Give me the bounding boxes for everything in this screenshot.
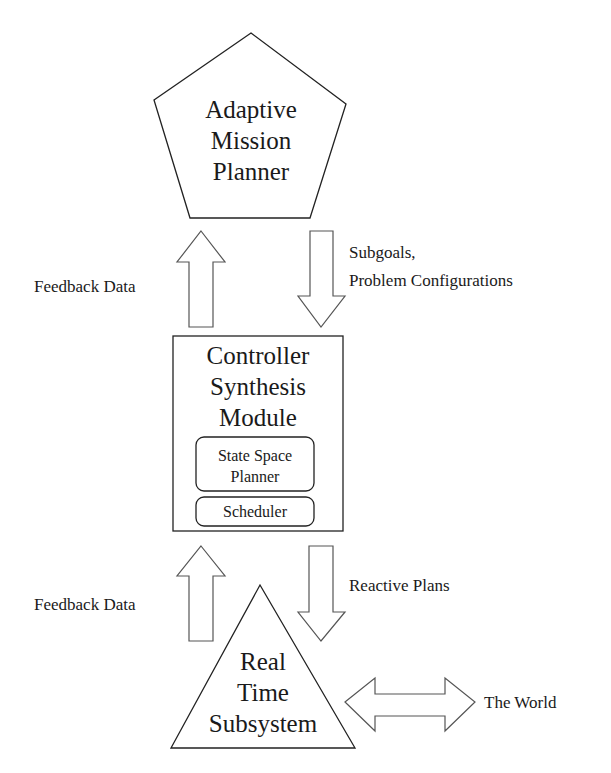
node-label-line: Planner	[213, 158, 290, 185]
lower-feedback-edge: Feedback Data	[34, 546, 225, 641]
edge-label: Feedback Data	[34, 595, 136, 614]
up-arrow-icon	[177, 546, 225, 641]
down-arrow-icon	[298, 546, 345, 641]
pentagon-shape	[154, 33, 346, 218]
node-label-line: Module	[219, 404, 297, 431]
component-label-line: Scheduler	[223, 503, 288, 520]
controller-synthesis-module-node: Controller Synthesis Module State Space …	[173, 336, 343, 531]
edge-label: Feedback Data	[34, 277, 136, 296]
double-arrow-icon	[345, 678, 475, 731]
edge-label: Problem Configurations	[349, 271, 513, 290]
edge-label: The World	[484, 693, 557, 712]
node-label-line: Controller	[207, 342, 310, 369]
adaptive-mission-planner-node: Adaptive Mission Planner	[154, 33, 346, 218]
edge-label: Reactive Plans	[349, 576, 450, 595]
world-link-edge: The World	[345, 678, 557, 731]
architecture-diagram: Adaptive Mission Planner Feedback Data S…	[0, 0, 611, 773]
node-label-line: Real	[240, 648, 286, 675]
scheduler-component: Scheduler	[196, 497, 314, 526]
node-label-line: Adaptive	[205, 96, 297, 123]
up-arrow-icon	[177, 231, 225, 327]
upper-feedback-edge: Feedback Data	[34, 231, 225, 327]
component-label-line: Planner	[231, 468, 281, 485]
node-label-line: Synthesis	[210, 373, 306, 400]
node-label-line: Time	[237, 679, 289, 706]
upper-command-edge: Subgoals, Problem Configurations	[298, 231, 513, 327]
down-arrow-icon	[298, 231, 345, 327]
lower-command-edge: Reactive Plans	[298, 546, 450, 641]
state-space-planner-component: State Space Planner	[196, 437, 314, 491]
node-label-line: Mission	[211, 127, 292, 154]
component-label-line: State Space	[218, 447, 292, 465]
node-label-line: Subsystem	[209, 710, 318, 737]
edge-label: Subgoals,	[349, 243, 416, 262]
